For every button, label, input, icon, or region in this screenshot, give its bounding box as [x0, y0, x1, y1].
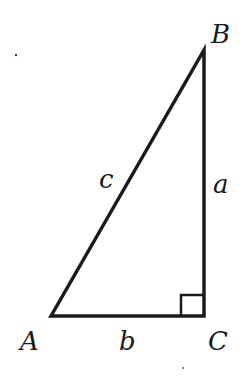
speck-dot — [182, 367, 184, 369]
right-triangle-diagram: B c a A b C — [0, 0, 245, 377]
side-label-a: a — [213, 169, 229, 199]
speck-dot — [15, 54, 17, 56]
right-angle-marker — [181, 295, 204, 316]
side-label-c: c — [99, 164, 114, 194]
vertex-label-a: A — [18, 326, 39, 356]
side-label-b: b — [119, 326, 136, 356]
triangle-abc — [51, 50, 204, 316]
vertex-label-c: C — [208, 326, 228, 356]
vertex-label-b: B — [210, 19, 230, 49]
